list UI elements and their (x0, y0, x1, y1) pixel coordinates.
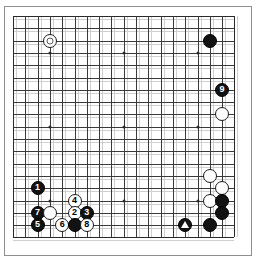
stone-move-number: 2 (72, 208, 77, 217)
star-point (196, 125, 199, 128)
grid-line-horizontal (13, 237, 234, 238)
star-point (48, 199, 51, 202)
stone-white[interactable] (215, 107, 229, 121)
stone-move-number: 6 (60, 220, 65, 229)
grid-line-vertical (185, 16, 186, 237)
star-point (122, 125, 125, 128)
triangle-marker-icon (181, 221, 189, 228)
stone-black-move-5[interactable]: 5 (31, 218, 45, 232)
circle-marker-icon (46, 37, 53, 44)
stone-move-number: 1 (35, 183, 40, 192)
grid-line-vertical (25, 16, 26, 237)
stone-white[interactable] (43, 206, 57, 220)
grid-line-vertical (99, 16, 100, 237)
grid-line-vertical (173, 16, 174, 237)
star-point (196, 199, 199, 202)
stone-move-number: 9 (220, 85, 225, 94)
stone-black-move-1[interactable]: 1 (31, 181, 45, 195)
stone-black[interactable] (215, 206, 229, 220)
stone-white-move-8[interactable]: 8 (80, 218, 94, 232)
stone-black-move-9[interactable]: 9 (215, 83, 229, 97)
star-point (122, 199, 125, 202)
stone-move-number: 3 (84, 208, 89, 217)
go-board[interactable]: 914723568 (0, 0, 256, 262)
stone-black[interactable] (203, 34, 217, 48)
grid-line-vertical (62, 16, 63, 237)
grid-line-vertical (38, 16, 39, 237)
stone-white[interactable] (203, 169, 217, 183)
stone-move-number: 4 (72, 196, 77, 205)
star-point (196, 51, 199, 54)
grid-line-vertical (148, 16, 149, 237)
stone-move-number: 5 (35, 220, 40, 229)
stone-black[interactable] (203, 218, 217, 232)
grid-line-vertical (13, 16, 14, 237)
star-point (48, 125, 51, 128)
grid-line-vertical (87, 16, 88, 237)
star-point (122, 51, 125, 54)
grid-line-vertical (136, 16, 137, 237)
star-point (48, 51, 51, 54)
grid-line-horizontal-faint (13, 240, 234, 241)
grid-line-vertical (111, 16, 112, 237)
grid-line-vertical-faint (237, 16, 238, 237)
grid-line-vertical (161, 16, 162, 237)
grid-line-vertical (234, 16, 235, 237)
stone-move-number: 7 (35, 208, 40, 217)
go-diagram-root: 914723568 (0, 0, 256, 262)
stone-move-number: 8 (84, 220, 89, 229)
